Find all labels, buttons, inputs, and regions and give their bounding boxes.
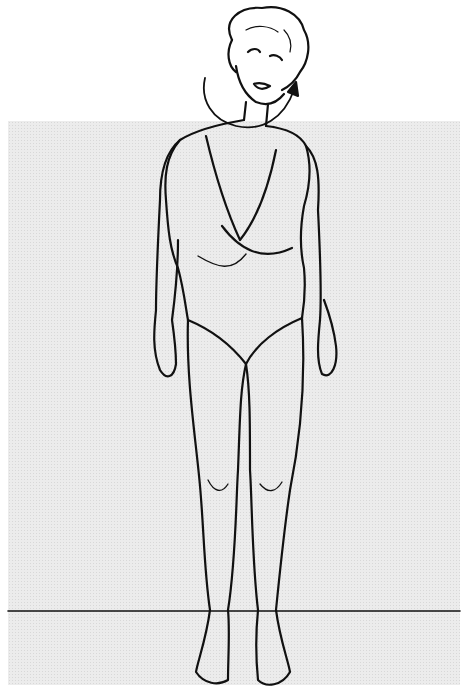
figure-illustration bbox=[0, 0, 469, 697]
rotation-arrow-icon bbox=[204, 78, 298, 127]
neck bbox=[244, 102, 268, 126]
legs bbox=[188, 318, 304, 685]
